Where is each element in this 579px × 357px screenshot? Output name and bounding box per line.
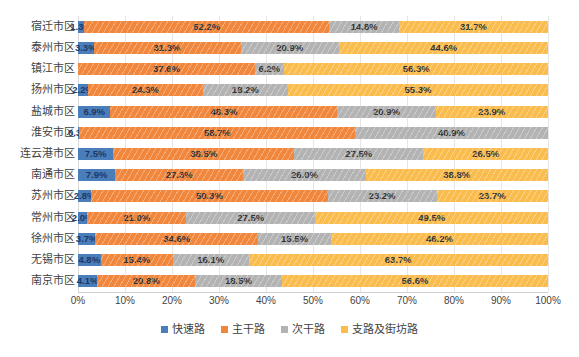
bar-value-label: 6.9% <box>83 106 105 118</box>
bar-row: 连云港市区7.5%38.5%27.5%26.5% <box>78 148 548 160</box>
bar-value-label: 4.8% <box>78 254 100 266</box>
legend-label: 主干路 <box>232 322 265 336</box>
category-label: 淮安市区 <box>3 124 78 141</box>
bar-segment: 38.8% <box>366 169 548 181</box>
bar-segment: 16.1% <box>173 254 249 266</box>
bar-segment: 20.9% <box>241 42 339 54</box>
category-label: 南通市区 <box>3 166 78 183</box>
legend-item[interactable]: 快速路 <box>161 322 205 336</box>
chart-legend: 快速路主干路次干路支路及街坊路 <box>0 322 579 336</box>
category-label: 苏州市区 <box>3 187 78 204</box>
bar-value-label: 21.0% <box>123 212 150 224</box>
legend-swatch-icon <box>221 326 228 333</box>
x-tick-label: 100% <box>535 294 561 308</box>
bar-segment: 50.3% <box>91 190 327 202</box>
bar-row: 常州市区2.0%21.0%27.5%49.5% <box>78 212 548 224</box>
bar-segment: 26.0% <box>243 169 365 181</box>
category-label: 无锡市区 <box>3 251 78 268</box>
bar-segment: 4.1% <box>78 275 97 287</box>
bar-value-label: 44.6% <box>430 42 457 54</box>
legend-item[interactable]: 支路及街坊路 <box>341 322 418 336</box>
stacked-bar-chart: 宿迁市区1.3%52.2%14.8%31.7%泰州市区3.3%31.3%20.9… <box>0 0 579 357</box>
bar-row: 宿迁市区1.3%52.2%14.8%31.7% <box>78 21 548 33</box>
x-tick-label: 90% <box>491 294 511 308</box>
legend-item[interactable]: 主干路 <box>221 322 265 336</box>
category-label: 常州市区 <box>3 209 78 226</box>
bar-segment: 48.3% <box>110 106 337 118</box>
x-axis-line <box>78 292 548 293</box>
bar-value-label: 40.9% <box>438 127 465 139</box>
bar-row: 盐城市区6.9%48.3%20.9%23.9% <box>78 106 548 118</box>
category-label: 盐城市区 <box>3 103 78 120</box>
bar-row: 苏州市区2.8%50.3%23.2%23.7% <box>78 190 548 202</box>
x-axis-tick-labels: 0%10%20%30%40%50%60%70%80%90%100% <box>78 294 548 310</box>
bar-value-label: 46.2% <box>426 233 453 245</box>
bar-segment: 44.6% <box>339 42 549 54</box>
bar-segment: 2.8% <box>78 190 91 202</box>
x-tick-label: 20% <box>162 294 182 308</box>
bar-row: 镇江市区37.6%6.2%56.3% <box>78 63 548 75</box>
bar-segment: 18.5% <box>195 275 282 287</box>
bar-segment: 37.6% <box>78 63 255 75</box>
category-label: 连云港市区 <box>3 145 78 162</box>
bar-value-label: 20.9% <box>276 42 303 54</box>
legend-item[interactable]: 次干路 <box>281 322 325 336</box>
bar-segment: 27.5% <box>294 148 423 160</box>
bar-value-label: 18.2% <box>232 84 259 96</box>
x-tick-label: 10% <box>115 294 135 308</box>
bar-row: 泰州市区3.3%31.3%20.9%44.6% <box>78 42 548 54</box>
bar-segment: 34.6% <box>95 233 258 245</box>
bar-value-label: 37.6% <box>153 63 180 75</box>
bar-value-label: 4.1% <box>77 275 99 287</box>
x-tick-label: 50% <box>303 294 323 308</box>
bar-row: 南通市区7.9%27.3%26.0%38.8% <box>78 169 548 181</box>
bar-segment: 4.8% <box>78 254 101 266</box>
bar-value-label: 20.8% <box>133 275 160 287</box>
bar-value-label: 7.9% <box>86 169 108 181</box>
bar-segment: 49.5% <box>315 212 548 224</box>
bar-value-label: 3.7% <box>76 233 98 245</box>
legend-swatch-icon <box>161 326 168 333</box>
bar-value-label: 55.3% <box>405 84 432 96</box>
bar-segment: 2.0% <box>78 212 87 224</box>
bar-segment: 52.2% <box>84 21 329 33</box>
x-tick-label: 80% <box>444 294 464 308</box>
bar-segment: 38.5% <box>113 148 294 160</box>
bar-value-label: 23.9% <box>478 106 505 118</box>
bar-segment: 15.5% <box>258 233 331 245</box>
bar-value-label: 34.6% <box>163 233 190 245</box>
bar-segment: 46.2% <box>331 233 548 245</box>
x-tick-label: 70% <box>397 294 417 308</box>
bar-value-label: 15.4% <box>123 254 150 266</box>
bar-row: 扬州市区2.2%24.3%18.2%55.3% <box>78 84 548 96</box>
bar-value-label: 52.2% <box>193 21 220 33</box>
category-label: 南京市区 <box>3 272 78 289</box>
category-label: 镇江市区 <box>3 60 78 77</box>
gridline-100 <box>548 16 549 292</box>
bar-value-label: 23.7% <box>479 190 506 202</box>
bar-segment: 3.7% <box>78 233 95 245</box>
bar-segment: 23.9% <box>436 106 548 118</box>
bar-segment: 56.3% <box>284 63 549 75</box>
bar-value-label: 27.5% <box>237 212 264 224</box>
legend-label: 支路及街坊路 <box>352 322 418 336</box>
bar-value-label: 24.3% <box>132 84 159 96</box>
plot-area: 宿迁市区1.3%52.2%14.8%31.7%泰州市区3.3%31.3%20.9… <box>78 16 548 292</box>
bar-value-label: 26.5% <box>472 148 499 160</box>
bar-value-label: 23.2% <box>369 190 396 202</box>
bar-segment: 24.3% <box>88 84 202 96</box>
bar-segment: 6.9% <box>78 106 110 118</box>
bar-value-label: 6.2% <box>258 63 280 75</box>
bar-row: 淮安市区0.3%58.7%40.9% <box>78 127 548 139</box>
bar-value-label: 31.3% <box>154 42 181 54</box>
bar-value-label: 50.3% <box>196 190 223 202</box>
bar-segment: 6.2% <box>255 63 284 75</box>
bar-value-label: 63.7% <box>385 254 412 266</box>
bar-value-label: 49.5% <box>418 212 445 224</box>
bar-value-label: 14.8% <box>351 21 378 33</box>
category-label: 宿迁市区 <box>3 18 78 35</box>
bar-segment: 20.9% <box>337 106 435 118</box>
bar-segment: 15.4% <box>101 254 173 266</box>
x-tick-label: 60% <box>350 294 370 308</box>
bar-value-label: 27.3% <box>166 169 193 181</box>
